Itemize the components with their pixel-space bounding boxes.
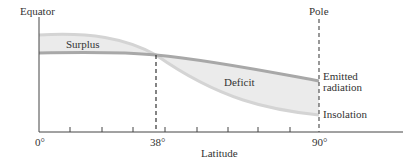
x-axis-title: Latitude (201, 147, 238, 159)
deficit-label: Deficit (224, 76, 255, 88)
insolation-label: Insolation (323, 108, 367, 120)
emitted-radiation-label-2: radiation (323, 81, 362, 93)
tick-label-38: 38° (150, 136, 165, 148)
surplus-label: Surplus (66, 38, 100, 50)
tick-label-0: 0° (35, 136, 45, 148)
axis-ticks (70, 127, 290, 132)
tick-label-90: 90° (312, 136, 327, 148)
pole-label: Pole (309, 5, 329, 17)
equator-label: Equator (20, 5, 55, 17)
